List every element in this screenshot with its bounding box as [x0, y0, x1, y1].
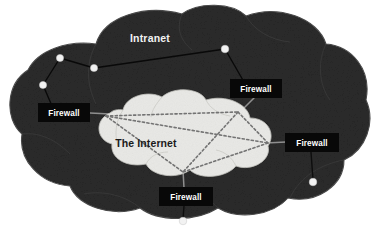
- node-upper-left-a[interactable]: [56, 54, 63, 61]
- node-top-right[interactable]: [221, 45, 229, 53]
- internet-cloud-label: The Internet: [115, 137, 177, 149]
- diagram-canvas: The Internet Intranet Firewall Firewall …: [0, 0, 377, 235]
- firewall-bottom-label: Firewall: [170, 193, 201, 202]
- link-firewall-left-to-mesh-west: [90, 113, 110, 114]
- firewall-left-label: Firewall: [48, 109, 79, 118]
- intranet-cloud-label: Intranet: [130, 32, 170, 44]
- firewall-right[interactable]: Firewall: [285, 133, 339, 152]
- firewall-top-right-label: Firewall: [240, 85, 271, 94]
- firewall-top-right[interactable]: Firewall: [230, 79, 282, 98]
- network-diagram: The Internet Intranet Firewall Firewall …: [0, 0, 377, 235]
- firewall-right-label: Firewall: [296, 139, 327, 148]
- node-upper-left-b[interactable]: [90, 64, 97, 71]
- firewall-bottom[interactable]: Firewall: [159, 187, 213, 206]
- node-right-lower[interactable]: [309, 178, 317, 186]
- node-bottom[interactable]: [179, 217, 187, 225]
- node-left-lower[interactable]: [39, 81, 46, 88]
- firewall-left[interactable]: Firewall: [38, 103, 90, 122]
